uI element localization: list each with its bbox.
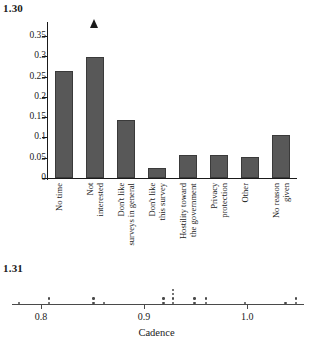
x-axis-label: No time bbox=[55, 183, 65, 211]
x-axis-label: Don't likethis survey bbox=[148, 183, 167, 220]
figure-number-131: 1.31 bbox=[3, 262, 23, 274]
x-axis-label-line: Other bbox=[241, 183, 251, 203]
dot bbox=[193, 302, 195, 304]
bar-series bbox=[48, 26, 297, 178]
dot bbox=[284, 302, 286, 304]
y-axis-tick-label: 0.3 bbox=[34, 51, 46, 60]
figure-number-130: 1.30 bbox=[3, 2, 23, 14]
x-axis-label: Notinterested bbox=[86, 183, 105, 216]
dot bbox=[172, 293, 174, 295]
y-axis-tick-label: 0.15 bbox=[29, 112, 46, 121]
dot bbox=[103, 302, 105, 304]
x-axis-label-line: interested bbox=[95, 183, 105, 216]
bar bbox=[210, 155, 228, 178]
dot bbox=[205, 302, 207, 304]
bar bbox=[55, 71, 73, 178]
dot bbox=[92, 302, 94, 304]
x-axis-label-line: this survey bbox=[158, 183, 168, 220]
bar bbox=[148, 168, 166, 178]
dot bbox=[162, 302, 164, 304]
dotplot-x-tick-label: 0.8 bbox=[35, 311, 48, 322]
dotplot-x-tick-label: 0.9 bbox=[138, 311, 151, 322]
x-axis-label-line: given bbox=[282, 183, 292, 218]
x-axis-label-line: the government bbox=[189, 183, 199, 239]
x-axis-label-line: surveys in general bbox=[126, 183, 136, 246]
dot-plot-figure: 0.80.91.0 Cadence bbox=[0, 278, 313, 353]
y-axis-tick-label: 0.1 bbox=[34, 132, 46, 141]
y-axis-tick-label: 0 bbox=[41, 173, 46, 182]
y-axis-tick-label: 0.2 bbox=[34, 92, 46, 101]
x-axis-label: Other bbox=[241, 183, 251, 203]
y-axis-tick-label: 0.35 bbox=[29, 31, 46, 40]
bar bbox=[86, 57, 104, 178]
dotplot-x-tick bbox=[41, 304, 42, 309]
dot bbox=[162, 297, 164, 299]
x-axis-label-line: protection bbox=[220, 183, 230, 218]
bar bbox=[241, 157, 259, 178]
dot bbox=[205, 297, 207, 299]
bar bbox=[272, 135, 290, 178]
dotplot-x-tick bbox=[247, 304, 248, 309]
bar bbox=[117, 120, 135, 178]
y-axis-tick-label: 0.25 bbox=[29, 72, 46, 81]
dotplot-x-tick-label: 1.0 bbox=[241, 311, 254, 322]
x-axis-label: No reasongiven bbox=[272, 183, 291, 218]
dot bbox=[295, 297, 297, 299]
dotplot-axis-title: Cadence bbox=[0, 327, 313, 338]
dot bbox=[172, 289, 174, 291]
y-axis-tick-label: 0.05 bbox=[29, 153, 46, 162]
dot bbox=[172, 302, 174, 304]
dot bbox=[172, 297, 174, 299]
x-axis-label: Hostility towardthe government bbox=[179, 183, 198, 239]
dot bbox=[92, 297, 94, 299]
dot bbox=[48, 297, 50, 299]
dot bbox=[193, 297, 195, 299]
x-axis-label: Privacyprotection bbox=[210, 183, 229, 218]
dot bbox=[295, 302, 297, 304]
x-axis-label-line: No time bbox=[55, 183, 65, 211]
number-line bbox=[12, 304, 304, 305]
dotplot-x-tick bbox=[144, 304, 145, 309]
bar bbox=[179, 155, 197, 179]
bar-chart-figure: 00.050.10.150.20.250.30.35 No timeNotint… bbox=[0, 18, 313, 258]
x-axis-label: Don't likesurveys in general bbox=[117, 183, 136, 246]
x-axis-line bbox=[47, 178, 297, 179]
